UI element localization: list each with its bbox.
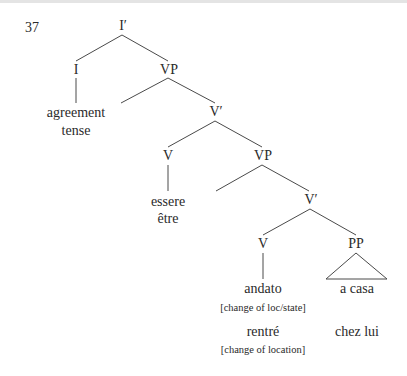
branch-ibar-vp — [122, 35, 168, 61]
example-number: 37 — [25, 21, 39, 35]
node-i-bar: I′ — [119, 19, 127, 33]
branch-vp-spec — [121, 78, 168, 103]
branch-vp-vbar — [168, 78, 215, 103]
leaf-essere: essere — [151, 195, 185, 209]
node-vp-lower: VP — [254, 149, 272, 163]
pp-triangle — [326, 253, 387, 279]
leaf-chez-lui: chez lui — [335, 325, 379, 339]
leaf-etre: être — [158, 212, 179, 226]
branch-vbar-vp — [215, 121, 262, 147]
branch-vp2-spec — [216, 165, 262, 191]
node-v-bar-lower: V′ — [304, 193, 317, 207]
node-v-bar: V′ — [209, 105, 222, 119]
leaf-tense: tense — [62, 124, 91, 138]
syntax-tree-branches — [0, 0, 407, 376]
branch-vbar2-pp — [310, 209, 356, 235]
node-v: V — [163, 149, 173, 163]
leaf-rentre: rentré — [247, 325, 280, 339]
branch-ibar-i — [76, 35, 122, 61]
leaf-a-casa: a casa — [340, 282, 374, 296]
node-vp: VP — [160, 63, 178, 77]
node-pp: PP — [348, 237, 364, 251]
node-v-lower: V — [258, 237, 268, 251]
annotation-change-of-location: [change of location] — [221, 345, 306, 356]
node-i: I — [74, 63, 79, 77]
branch-vp2-vbar — [262, 165, 309, 191]
annotation-change-of-loc-state: [change of loc/state] — [220, 303, 306, 314]
leaf-andato: andato — [244, 282, 281, 296]
branch-vbar2-v — [263, 209, 310, 235]
leaf-agreement: agreement — [47, 106, 105, 120]
branch-vbar-v — [168, 121, 215, 147]
